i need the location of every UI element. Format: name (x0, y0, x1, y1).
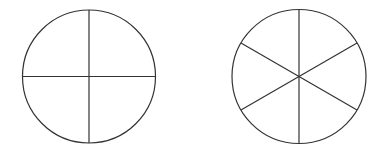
circle-divided-into-sixths (232, 10, 366, 144)
radius-line (241, 77, 299, 111)
radius-line (241, 43, 299, 77)
diagram-canvas (0, 0, 386, 153)
radius-line (299, 77, 357, 111)
radius-line (299, 43, 357, 77)
circle-divided-into-quarters (23, 10, 156, 143)
